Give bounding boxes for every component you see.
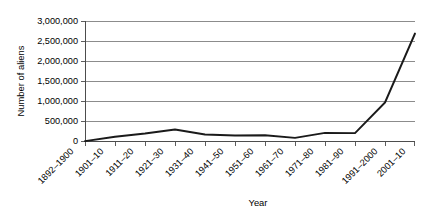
x-tick-label-9: 1981–90 bbox=[313, 146, 345, 178]
y-axis: 3,000,000 2,500,000 2,000,000 1,500,000 … bbox=[37, 16, 85, 146]
x-tick-label-8: 1971–80 bbox=[283, 146, 315, 178]
y-tick-label-0: 0 bbox=[73, 136, 78, 146]
x-tick-labels-group: 1892–1900 1901–10 1911–20 1921–30 1931–4… bbox=[36, 146, 408, 186]
x-tick-label-0: 1892–1900 bbox=[36, 146, 76, 186]
y-tick-label-1000000: 1,000,000 bbox=[37, 96, 78, 106]
y-tick-label-2500000: 2,500,000 bbox=[37, 36, 78, 46]
x-axis bbox=[85, 142, 415, 147]
x-tick-label-2: 1911–20 bbox=[104, 146, 136, 178]
x-tick-label-5: 1941–50 bbox=[193, 146, 225, 178]
y-tick-label-2000000: 2,000,000 bbox=[37, 56, 78, 66]
chart-canvas: 3,000,000 2,500,000 2,000,000 1,500,000 … bbox=[0, 0, 434, 224]
y-tick-label-500000: 500,000 bbox=[45, 116, 78, 126]
x-tick-label-4: 1931–40 bbox=[163, 146, 195, 178]
y-tick-label-3000000: 3,000,000 bbox=[37, 16, 78, 26]
line-chart-figure: 3,000,000 2,500,000 2,000,000 1,500,000 … bbox=[0, 0, 434, 224]
x-tick-label-6: 1951–60 bbox=[223, 146, 255, 178]
y-tick-label-1500000: 1,500,000 bbox=[37, 76, 78, 86]
data-series-line bbox=[85, 34, 415, 142]
x-tick-label-7: 1961–70 bbox=[253, 146, 285, 178]
x-tick-label-10: 1991–2000 bbox=[340, 146, 380, 186]
x-tick-label-1: 1901–10 bbox=[73, 146, 105, 178]
gridlines-group bbox=[85, 22, 415, 122]
x-axis-title: Year bbox=[249, 197, 268, 208]
y-axis-title: Number of aliens bbox=[15, 45, 26, 116]
x-tick-label-11: 2001–10 bbox=[375, 146, 407, 178]
x-tick-label-3: 1921–30 bbox=[133, 146, 165, 178]
